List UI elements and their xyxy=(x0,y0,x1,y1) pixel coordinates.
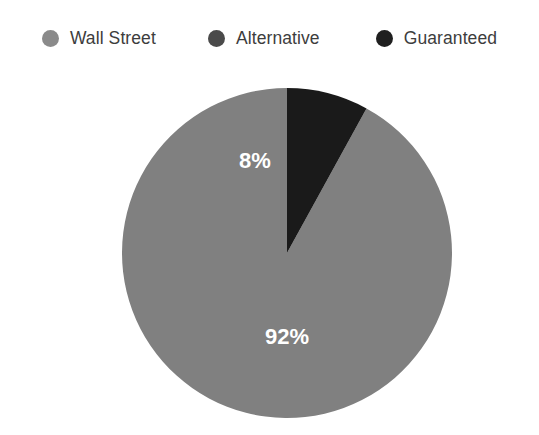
legend-item-wall-street[interactable]: Wall Street xyxy=(42,29,156,48)
slice-label-wall-street: 92% xyxy=(265,324,309,349)
legend-item-alternative[interactable]: Alternative xyxy=(208,29,320,48)
slice-label-guaranteed: 8% xyxy=(239,148,271,173)
circle-icon xyxy=(208,30,225,47)
chart-legend: Wall Street Alternative Guaranteed xyxy=(0,20,539,56)
legend-item-label: Guaranteed xyxy=(404,29,497,48)
legend-item-label: Wall Street xyxy=(70,29,156,48)
pie-chart-figure: Wall Street Alternative Guaranteed 92% 8… xyxy=(0,0,539,435)
circle-icon xyxy=(42,30,59,47)
pie-slice[interactable] xyxy=(122,88,452,418)
legend-item-label: Alternative xyxy=(236,29,320,48)
pie-svg: 92% 8% xyxy=(122,88,452,418)
legend-item-guaranteed[interactable]: Guaranteed xyxy=(376,29,497,48)
pie-slices xyxy=(122,88,452,418)
circle-icon xyxy=(376,30,393,47)
pie-plot-area: 92% 8% xyxy=(122,88,452,418)
